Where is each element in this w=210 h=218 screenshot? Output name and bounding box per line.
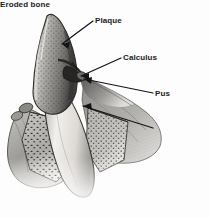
callout-label-eroded-bone: Eroded bone <box>0 0 50 9</box>
callout-label-pus: Pus <box>155 89 170 98</box>
bottom-fade <box>0 158 210 218</box>
periodontal-disease-figure: Plaque Calculus Pus Eroded bone <box>0 0 210 218</box>
callout-label-plaque: Plaque <box>95 16 122 25</box>
callout-label-calculus: Calculus <box>123 53 157 62</box>
illustration-artwork <box>0 0 210 218</box>
